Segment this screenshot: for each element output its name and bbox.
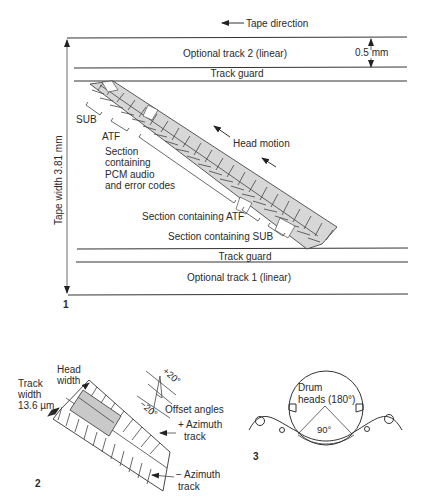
drum-head-right-icon bbox=[356, 404, 363, 412]
figure-1-number: 1 bbox=[63, 299, 69, 310]
figure-3-drum-wrap: Drum heads (180°) 90° 3 bbox=[249, 371, 402, 462]
drum-head-left-icon bbox=[289, 404, 296, 412]
section-pcm-label: Section containing PCM audio and error c… bbox=[105, 146, 175, 191]
sub-label: SUB bbox=[76, 114, 97, 125]
offset-angles-label: Offset angles bbox=[165, 404, 224, 415]
dimension-0-5mm-label: 0.5 mm bbox=[355, 47, 388, 58]
dat-track-diagram: Tape direction Optional track 2 (linear)… bbox=[0, 0, 428, 500]
figure-2-number: 2 bbox=[35, 478, 41, 489]
tape-top-edge bbox=[67, 37, 407, 38]
atf-label: ATF bbox=[102, 131, 120, 142]
track-width-label: Track width 13.6 µm bbox=[17, 378, 54, 411]
pinch-roller-left-icon bbox=[280, 428, 285, 433]
figure-1-track-layout: Tape direction Optional track 2 (linear)… bbox=[53, 18, 408, 310]
pinch-roller-right-icon bbox=[365, 427, 370, 432]
track-guard-bottom-upper-line bbox=[77, 248, 408, 249]
section-atf-label: Section containing ATF bbox=[142, 211, 244, 222]
optional-track-1-label: Optional track 1 (linear) bbox=[187, 272, 291, 283]
track-guard-bottom-label: Track guard bbox=[219, 251, 272, 262]
figure-3-number: 3 bbox=[253, 451, 259, 462]
wrap-angle-label: 90° bbox=[317, 424, 332, 435]
track-guard-top-label: Track guard bbox=[211, 68, 264, 79]
figure-2-azimuth-tracks: Head width Track width 13.6 µm +20° −20°… bbox=[17, 364, 225, 492]
plus-20-angle-label: +20° bbox=[161, 365, 183, 386]
head-width-label: Head width bbox=[56, 364, 84, 386]
plus-azimuth-track-label: + Azimuth track bbox=[178, 419, 225, 442]
drum-heads-label: Drum heads (180°) bbox=[298, 382, 355, 405]
optional-track-2-label: Optional track 2 (linear) bbox=[183, 48, 287, 59]
head-motion-label: Head motion bbox=[233, 138, 290, 149]
tape-width-label: Tape width 3.81 mm bbox=[53, 136, 64, 226]
section-sub-label: Section containing SUB bbox=[168, 231, 273, 242]
minus-azimuth-track-label: − Azimuth track bbox=[176, 469, 223, 492]
tape-direction-label: Tape direction bbox=[246, 18, 308, 29]
minus-20-angle-label: −20° bbox=[138, 398, 160, 419]
tape-bottom-edge bbox=[68, 294, 408, 295]
